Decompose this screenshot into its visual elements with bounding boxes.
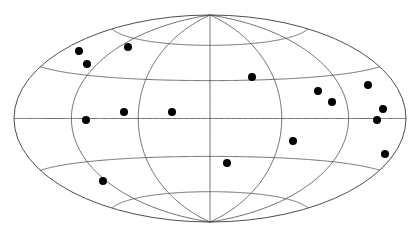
- data-point: [248, 73, 256, 81]
- data-point: [124, 43, 132, 51]
- hammer-projection-chart: [0, 0, 418, 230]
- data-point: [120, 108, 128, 116]
- data-point: [168, 108, 176, 116]
- data-point: [83, 60, 91, 68]
- data-point: [99, 177, 107, 185]
- data-point: [82, 116, 90, 124]
- data-points: [75, 43, 389, 185]
- data-point: [373, 116, 381, 124]
- data-point: [289, 137, 297, 145]
- data-point: [75, 47, 83, 55]
- data-point: [381, 150, 389, 158]
- data-point: [379, 105, 387, 113]
- data-point: [364, 81, 372, 89]
- graticule: [14, 15, 406, 222]
- data-point: [328, 98, 336, 106]
- data-point: [223, 159, 231, 167]
- data-point: [314, 87, 322, 95]
